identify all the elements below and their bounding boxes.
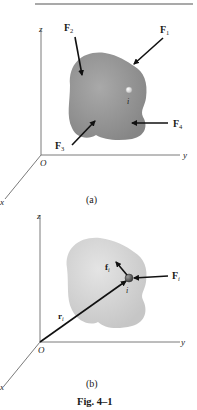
z-label-b: z bbox=[36, 211, 41, 221]
position-label-ri: ri bbox=[58, 311, 64, 322]
x-label-a: x bbox=[0, 197, 4, 207]
figure-caption: Fig. 4–1 bbox=[77, 396, 113, 407]
force-label-f2: F2 bbox=[64, 22, 73, 34]
figure-canvas: z y x O i F1 F2 F3 F4 (a) z y x O ri bbox=[0, 0, 197, 410]
y-label-a: y bbox=[182, 150, 187, 160]
particle-a bbox=[126, 87, 133, 94]
y-label-b: y bbox=[180, 337, 185, 347]
z-label-a: z bbox=[38, 24, 43, 34]
x-axis-a bbox=[5, 155, 41, 199]
force-label-f3: F3 bbox=[55, 140, 64, 152]
force-arrow-f1 bbox=[134, 38, 163, 64]
force-label-f1: F1 bbox=[160, 24, 169, 36]
panel-b: z y x O ri i fi Fi (b) bbox=[0, 211, 185, 392]
panel-label-b: (b) bbox=[86, 378, 98, 390]
origin-label-b: O bbox=[38, 345, 45, 355]
x-axis-b bbox=[4, 342, 40, 386]
x-label-b: x bbox=[0, 382, 4, 392]
panel-label-a: (a) bbox=[86, 194, 97, 206]
external-force-label-Fi: Fi bbox=[172, 270, 180, 282]
panel-a: z y x O i F1 F2 F3 F4 (a) bbox=[0, 22, 187, 207]
force-label-f4: F4 bbox=[173, 118, 183, 130]
particle-label-b: i bbox=[126, 286, 128, 295]
particle-label-a: i bbox=[127, 97, 129, 106]
origin-label-a: O bbox=[40, 158, 47, 168]
